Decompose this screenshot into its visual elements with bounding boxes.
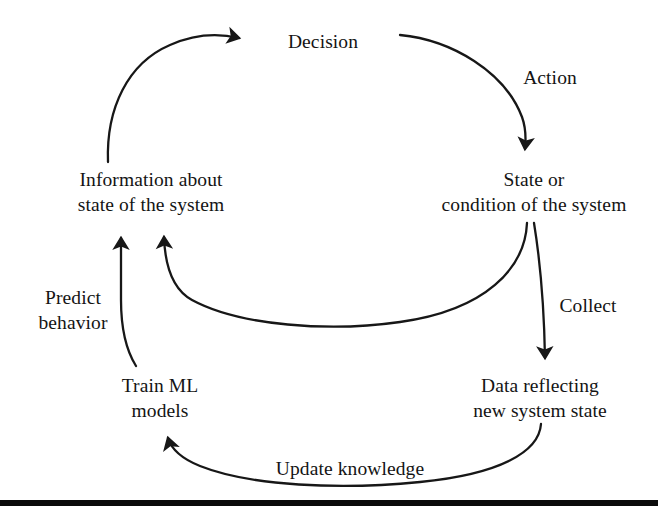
information-node-line-2: state of the system bbox=[31, 192, 271, 217]
edge-action-label-text: Action bbox=[470, 65, 630, 90]
data-node-line-1: Data reflecting bbox=[420, 373, 658, 398]
arrow-collect bbox=[534, 223, 545, 358]
information-node-line-1: Information about bbox=[31, 167, 271, 192]
edge-collect-label: Collect bbox=[508, 293, 658, 318]
decision-node-line-1: Decision bbox=[223, 29, 423, 54]
train-node-line-2: models bbox=[50, 398, 270, 423]
decision-node: Decision bbox=[223, 29, 423, 54]
edge-predict-behavior-label-line-2: behavior bbox=[3, 310, 143, 335]
edge-update-knowledge-label-text: Update knowledge bbox=[230, 456, 470, 481]
data-node: Data reflecting new system state bbox=[420, 373, 658, 423]
footer-rule bbox=[0, 500, 658, 506]
state-node-line-1: State or bbox=[404, 167, 658, 192]
edge-predict-behavior-label: Predict behavior bbox=[3, 285, 143, 335]
train-node-line-1: Train ML bbox=[50, 373, 270, 398]
state-node-line-2: condition of the system bbox=[404, 192, 658, 217]
data-node-line-2: new system state bbox=[420, 398, 658, 423]
train-node: Train ML models bbox=[50, 373, 270, 423]
information-node: Information about state of the system bbox=[31, 167, 271, 217]
edge-predict-behavior-label-line-1: Predict bbox=[3, 285, 143, 310]
state-node: State or condition of the system bbox=[404, 167, 658, 217]
arrow-state-feedback bbox=[164, 223, 527, 327]
edge-update-knowledge-label: Update knowledge bbox=[230, 456, 470, 481]
edge-action-label: Action bbox=[470, 65, 630, 90]
arrow-information-to-decision bbox=[108, 35, 239, 162]
edge-collect-label-text: Collect bbox=[508, 293, 658, 318]
